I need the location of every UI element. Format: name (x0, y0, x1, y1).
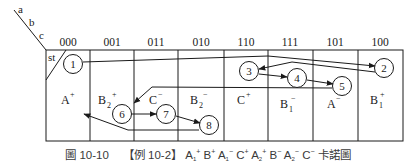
step-6: 6 (113, 105, 132, 124)
svg-text:1: 1 (289, 105, 293, 114)
seq-item: B− (270, 149, 282, 161)
col-header-000: 000 (59, 36, 77, 48)
svg-text:7: 7 (163, 108, 169, 120)
svg-text:2: 2 (199, 101, 203, 110)
svg-text:+: + (112, 90, 117, 99)
step-8: 8 (200, 116, 219, 135)
cell-000-A-plus: A+ (61, 90, 75, 107)
cell-111-B1-minus: B1− (280, 94, 296, 114)
seq-item: A2+ (251, 149, 266, 161)
arrow-4-to-5 (307, 80, 333, 84)
seq-item: B+ (204, 149, 216, 161)
caption-prefix: 【例 10-2】 (123, 149, 182, 161)
svg-text:C: C (149, 93, 157, 107)
caption-suffix: 卡諾圖 (318, 149, 351, 161)
col-header-001: 001 (103, 36, 121, 48)
svg-text:A: A (327, 97, 336, 111)
svg-text:C: C (237, 93, 245, 107)
arrow-5-to-6 (134, 87, 332, 103)
start-label: st (48, 51, 55, 63)
column-headers: 000 001 011 010 110 111 101 100 (59, 36, 389, 48)
karnaugh-map: a b c 000 001 011 010 110 111 101 100 st… (0, 0, 416, 168)
svg-text:A: A (61, 93, 70, 107)
arrow-1-to-2 (83, 56, 375, 66)
svg-text:6: 6 (119, 108, 125, 120)
cell-110-C-plus: C+ (237, 90, 251, 107)
arrow-8-to-start (84, 114, 199, 130)
svg-text:−: − (203, 90, 208, 99)
step-3: 3 (240, 62, 259, 81)
figure-number: 圖 10-10 (65, 149, 109, 161)
seq-item: A1+ (185, 149, 200, 161)
label-b: b (29, 16, 35, 28)
svg-text:4: 4 (294, 72, 300, 84)
svg-text:5: 5 (339, 80, 345, 92)
svg-text:1: 1 (379, 101, 383, 110)
step-4: 4 (288, 69, 307, 88)
col-header-011: 011 (148, 36, 165, 48)
cell-010-B2-minus: B2− (190, 90, 208, 110)
caption-sequence: A1+ B+ A1− C+ A2+ B− A2− C− (182, 149, 318, 161)
svg-text:−: − (291, 94, 296, 103)
svg-text:+: + (380, 90, 385, 99)
col-header-100: 100 (371, 36, 389, 48)
step-5: 5 (333, 77, 352, 96)
label-a: a (18, 3, 23, 15)
svg-text:B: B (98, 93, 106, 107)
col-header-110: 110 (238, 36, 255, 48)
seq-item: A2− (284, 149, 299, 161)
svg-text:+: + (70, 90, 75, 99)
cell-101-A-minus: A− (327, 94, 341, 111)
svg-text:B: B (370, 93, 378, 107)
figure-caption: 圖 10-10【例 10-2】 A1+ B+ A1− C+ A2+ B− A2−… (0, 146, 416, 162)
corner-variable-labels: a b c (14, 3, 46, 50)
svg-text:B: B (280, 97, 288, 111)
label-c: c (39, 29, 44, 41)
svg-text:+: + (246, 90, 251, 99)
step-2: 2 (375, 59, 394, 78)
col-header-010: 010 (192, 36, 210, 48)
cell-011-C-minus: C− (149, 90, 163, 107)
seq-item: C− (302, 149, 314, 161)
arrow-3-to-4 (259, 74, 287, 77)
svg-text:3: 3 (246, 65, 252, 77)
col-header-111: 111 (282, 36, 299, 48)
step-1: 1 (64, 55, 83, 74)
svg-text:2: 2 (107, 101, 111, 110)
svg-text:B: B (190, 93, 198, 107)
col-header-101: 101 (326, 36, 344, 48)
cell-100-B1-plus: B1+ (370, 90, 385, 110)
seq-item: C+ (236, 149, 248, 161)
step-7: 7 (157, 105, 176, 124)
seq-item: A1− (218, 149, 233, 161)
svg-text:1: 1 (70, 58, 76, 70)
arrow-7-to-8 (176, 116, 200, 123)
svg-text:2: 2 (381, 62, 387, 74)
svg-text:8: 8 (206, 119, 212, 131)
svg-text:−: − (158, 90, 163, 99)
cell-001-B2-plus: B2+ (98, 90, 117, 110)
